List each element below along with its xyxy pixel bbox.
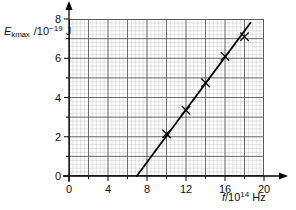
photoelectric-effect-chart: 048121620 02468 Ekmax /10−19 J f/1014 Hz [0, 0, 296, 210]
best-fit-line [137, 23, 251, 176]
x-axis-unit: Hz [252, 191, 265, 203]
data-point-marker [221, 52, 229, 60]
x-tick-label: 0 [66, 184, 72, 195]
data-point-markers [162, 32, 248, 138]
y-tick-label: 6 [47, 53, 61, 64]
x-axis-exponent: 14 [240, 190, 249, 199]
data-point-marker [201, 79, 209, 87]
x-axis-divider: /10 [225, 191, 240, 203]
x-tick-label: 12 [180, 184, 192, 195]
x-axis-label: f/1014 Hz [222, 188, 266, 204]
axis-tick-marks [64, 19, 264, 181]
y-axis-subscript: kmax [11, 30, 29, 39]
y-tick-label: 4 [47, 92, 61, 103]
x-tick-label: 8 [144, 184, 150, 195]
axis-lines [63, 1, 288, 182]
y-axis-unit: J [66, 25, 72, 37]
y-tick-label: 0 [47, 171, 61, 182]
data-point-marker [240, 32, 248, 40]
y-axis-exponent: −19 [49, 24, 63, 33]
y-tick-label: 2 [47, 131, 61, 142]
y-axis-label: Ekmax /10−19 J [4, 22, 71, 41]
x-tick-label: 4 [105, 184, 111, 195]
y-axis-divider: /10 [34, 25, 49, 37]
data-point-marker [182, 106, 190, 114]
